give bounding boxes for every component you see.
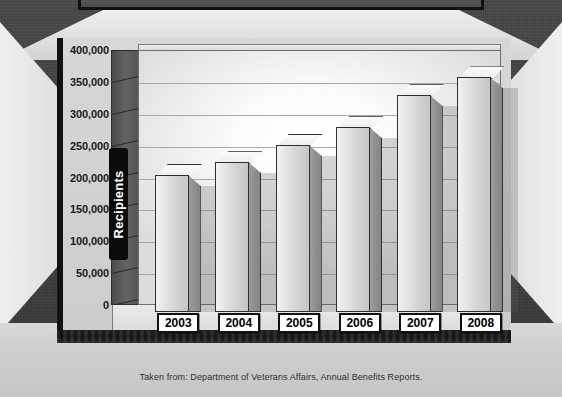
bar-front-face [155,175,189,312]
bar-series [138,50,501,312]
x-axis-year-label: 2005 [278,313,320,333]
bar-shadow [321,156,337,312]
y-axis-tick-label: 200,000 [70,172,109,184]
screenshot-root: 400,000350,000300,000250,000200,000150,0… [0,0,562,397]
bar-front-face [215,162,249,312]
bar-column [397,95,431,312]
bar-side-face [490,77,503,312]
x-axis-year-label: 2007 [399,313,441,333]
axis-notch [111,50,139,52]
bar-shadow [442,106,458,312]
x-axis-year-label: 2003 [157,313,199,333]
x-axis-year-label: 2006 [339,313,381,333]
y-axis-tick-label: 150,000 [70,203,109,215]
bar-shadow [502,88,518,312]
x-axis-tick-labels: 200320042005200620072008 [138,313,501,337]
bar-column [276,145,310,312]
axis-notch [111,265,139,275]
bar-front-face [336,127,370,312]
x-axis-year-label: 2008 [460,313,502,333]
bar-column [457,77,491,312]
bar-side-face [309,145,322,312]
bar-front-face [276,145,310,312]
top-banner [78,0,484,10]
y-axis-tick-label: 400,000 [70,44,109,56]
bar-column [336,127,370,312]
bar-side-face [248,162,261,312]
y-axis-title: Recipients [109,148,128,260]
bar-side-face [369,127,382,312]
y-axis-tick-label: 250,000 [70,140,109,152]
bar-shadow [381,138,397,312]
bar-shadow [260,173,276,312]
y-axis-tick-label: 300,000 [70,108,109,120]
axis-notch [111,74,139,84]
y-axis-tick-label: 350,000 [70,76,109,88]
bar-front-face [457,77,491,312]
bar-side-face [188,175,201,312]
axis-notch [111,138,139,148]
bar-column [155,175,189,312]
plot-area: 400,000350,000300,000250,000200,000150,0… [63,42,507,332]
y-axis-tick-label: 50,000 [76,267,109,279]
axis-notch [111,297,139,305]
y-axis-title-text: Recipients [111,170,126,238]
bar-side-face [430,95,443,312]
x-axis-year-label: 2004 [218,313,260,333]
y-axis-tick-labels: 400,000350,000300,000250,000200,000150,0… [63,42,109,332]
bar-front-face [397,95,431,312]
bar-column [215,162,249,312]
y-axis-tick-label: 100,000 [70,235,109,247]
y-axis-tick-label: 0 [103,299,109,311]
axis-notch [111,106,139,116]
source-caption: Taken from: Department of Veterans Affai… [0,372,562,382]
bar-shadow [200,186,216,312]
